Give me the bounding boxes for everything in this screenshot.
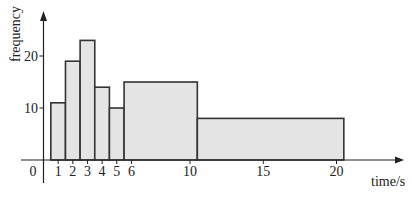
y-ticks: 1020 bbox=[24, 49, 44, 116]
y-axis-arrow-icon bbox=[40, 11, 47, 21]
histogram-bar bbox=[80, 40, 95, 160]
y-tick-label: 20 bbox=[24, 49, 38, 64]
y-tick-label: 10 bbox=[24, 101, 38, 116]
histogram-bar bbox=[124, 82, 197, 160]
histogram-bar bbox=[109, 108, 124, 160]
histogram-chart: 123456101520 1020 0 time/s frequency bbox=[0, 0, 412, 198]
x-tick-label: 20 bbox=[330, 164, 344, 179]
x-tick-label: 15 bbox=[256, 164, 270, 179]
x-tick-label: 6 bbox=[128, 164, 135, 179]
histogram-bar bbox=[51, 103, 66, 160]
x-tick-label: 3 bbox=[84, 164, 91, 179]
histogram-bar bbox=[197, 118, 344, 160]
x-tick-label: 5 bbox=[113, 164, 120, 179]
x-ticks: 123456101520 bbox=[55, 160, 344, 179]
x-tick-label: 4 bbox=[99, 164, 106, 179]
histogram-bar bbox=[65, 61, 80, 160]
y-axis-label: frequency bbox=[8, 6, 23, 62]
x-tick-label: 2 bbox=[69, 164, 76, 179]
x-axis-label: time/s bbox=[371, 174, 405, 189]
histogram-bar bbox=[95, 87, 110, 160]
x-tick-label: 10 bbox=[183, 164, 197, 179]
x-axis-arrow-icon bbox=[395, 157, 404, 164]
origin-label: 0 bbox=[30, 164, 37, 179]
histogram-bars bbox=[51, 40, 344, 160]
x-tick-label: 1 bbox=[55, 164, 62, 179]
